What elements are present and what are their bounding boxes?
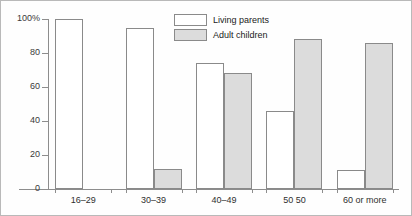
bar-living-parents-1 <box>126 28 154 190</box>
y-tick-label-0: 0 <box>35 184 40 193</box>
y-tick-0 <box>42 189 48 190</box>
bar-living-parents-2 <box>196 63 224 189</box>
x-tick-4 <box>337 189 338 193</box>
y-tick-label-100: 100% <box>17 14 40 23</box>
bars-layer <box>48 19 400 189</box>
x-axis-label-4: 60 or more <box>325 195 405 205</box>
x-tick-0 <box>55 189 56 193</box>
y-tick-label-60: 60 <box>30 82 40 91</box>
x-tick-1 <box>126 189 127 193</box>
x-axis-label-1: 30–39 <box>114 195 194 205</box>
chart-legend: Living parents Adult children <box>174 14 269 41</box>
x-axis-label-0: 16–29 <box>43 195 123 205</box>
y-axis-labels: 020406080100% <box>1 1 40 216</box>
legend-item-adult-children: Adult children <box>174 29 269 41</box>
x-tick-end-2 <box>252 189 253 193</box>
legend-item-living-parents: Living parents <box>174 14 269 26</box>
bar-adult-children-4 <box>365 43 393 189</box>
bar-living-parents-4 <box>337 170 365 189</box>
x-tick-end-1 <box>182 189 183 193</box>
gray-swatch-icon <box>174 29 207 41</box>
legend-label-living-parents: Living parents <box>213 15 269 25</box>
x-tick-2 <box>196 189 197 193</box>
y-tick-label-20: 20 <box>30 150 40 159</box>
x-tick-end-3 <box>322 189 323 193</box>
chart-figure: 020406080100% 16–2930–3940–4950 5060 or … <box>0 0 412 216</box>
y-tick-label-80: 80 <box>30 48 40 57</box>
bar-adult-children-3 <box>294 39 322 189</box>
x-axis-line <box>19 189 399 190</box>
x-tick-end-4 <box>393 189 394 193</box>
y-tick-label-40: 40 <box>30 116 40 125</box>
x-axis-label-3: 50 50 <box>254 195 334 205</box>
legend-label-adult-children: Adult children <box>213 30 268 40</box>
x-tick-end-0 <box>111 189 112 193</box>
white-swatch-icon <box>174 14 207 26</box>
x-tick-3 <box>266 189 267 193</box>
bar-adult-children-2 <box>224 73 252 189</box>
bar-adult-children-1 <box>154 169 182 189</box>
bar-living-parents-3 <box>266 111 294 189</box>
bar-living-parents-0 <box>55 19 83 189</box>
x-axis-label-2: 40–49 <box>184 195 264 205</box>
